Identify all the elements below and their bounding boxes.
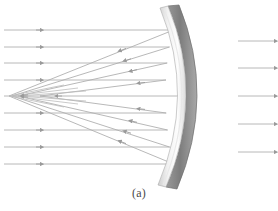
optics-diagram-svg bbox=[0, 0, 278, 211]
figure-caption: (a) bbox=[0, 186, 278, 201]
figure-concave-mirror-spherical-aberration: (a) bbox=[0, 0, 278, 211]
